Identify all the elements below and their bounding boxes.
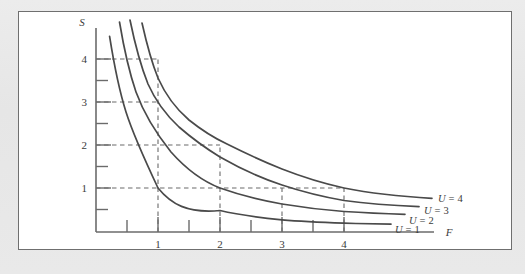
curve-u2	[120, 22, 406, 214]
curve-label-u4-variable: U	[438, 193, 447, 204]
y-tick-marks	[96, 59, 111, 210]
curve-label-u1-variable: U	[395, 224, 404, 235]
figure-page: S F 4 3 2 1 1 2 3 4 U=4 U=3	[0, 0, 525, 274]
curve-label-u2-value: 2	[429, 215, 434, 226]
x-tick-label-2: 2	[217, 238, 223, 249]
y-tick-label-1: 1	[82, 182, 88, 194]
y-axis-title: S	[79, 16, 85, 28]
indifference-curve-chart: S F 4 3 2 1 1 2 3 4 U=4 U=3	[19, 12, 511, 249]
indifference-curves-group	[110, 20, 432, 224]
x-tick-labels: 1 2 3 4	[155, 238, 347, 249]
curve-label-u3-value: 3	[444, 205, 449, 216]
curve-label-u1-value: 1	[415, 224, 420, 235]
curve-label-u3-equals: =	[435, 205, 441, 216]
y-tick-label-2: 2	[82, 139, 88, 151]
y-tick-labels: 4 3 2 1	[82, 53, 88, 194]
curve-u1	[110, 36, 391, 224]
curve-label-u4-equals: =	[449, 193, 455, 204]
curve-label-u2-equals: =	[420, 215, 426, 226]
y-tick-label-4: 4	[82, 53, 88, 65]
curve-label-u1: U=1	[395, 224, 420, 235]
curve-label-u4: U=4	[438, 193, 464, 204]
x-tick-label-1: 1	[155, 238, 161, 249]
x-tick-label-3: 3	[279, 238, 285, 249]
x-tick-marks	[127, 217, 344, 232]
curve-label-u2: U=2	[409, 215, 434, 226]
figure-plate: S F 4 3 2 1 1 2 3 4 U=4 U=3	[18, 11, 512, 250]
x-axis-title: F	[445, 226, 453, 238]
y-tick-label-3: 3	[82, 96, 88, 108]
curve-u4	[142, 23, 432, 198]
curve-u3	[130, 20, 419, 207]
x-tick-label-4: 4	[341, 238, 347, 249]
curve-label-u4-value: 4	[458, 193, 464, 204]
curve-label-u1-equals: =	[406, 224, 412, 235]
